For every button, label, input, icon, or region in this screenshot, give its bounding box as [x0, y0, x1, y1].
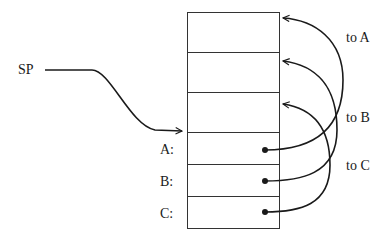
to-c-label: to C: [346, 158, 370, 173]
stack-box: [188, 13, 280, 229]
link-arrow-to-b: [265, 61, 337, 181]
cell-label-b: B:: [160, 174, 173, 189]
stack-diagram: SP A: B: C: to A to B to C: [0, 0, 392, 242]
to-b-label: to B: [346, 110, 370, 125]
sp-pointer-arrow: [45, 70, 182, 131]
cell-label-a: A:: [160, 142, 174, 157]
link-arrow-to-c: [265, 104, 330, 212]
cell-label-c: C:: [160, 206, 173, 221]
to-a-label: to A: [346, 30, 371, 45]
link-arrow-to-a: [265, 18, 343, 150]
sp-label: SP: [18, 62, 34, 77]
